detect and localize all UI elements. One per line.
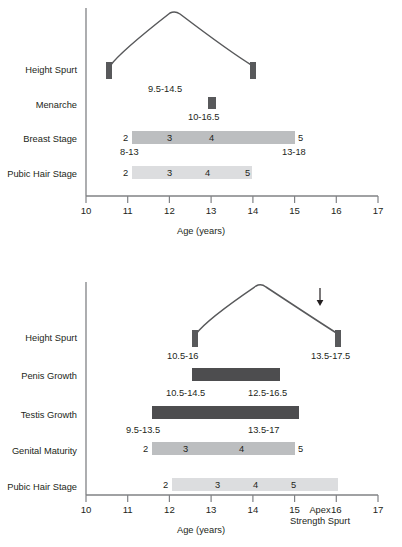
apex-strength-spurt-arrow — [317, 288, 324, 306]
height-spurt-curve — [196, 285, 338, 334]
row-label-genital-maturity: Genital Maturity — [12, 447, 77, 456]
genital-maturity-num-3: 3 — [183, 445, 188, 454]
row-label-pubic-hair-stage: Pubic Hair Stage — [7, 483, 77, 492]
x-tick-label-13: 13 — [199, 505, 223, 515]
menarche-marker — [208, 97, 216, 109]
height-spurt-start-marker — [106, 62, 112, 79]
x-axis-ticks — [86, 196, 378, 203]
pubic-hair-stage-num-4: 4 — [253, 481, 258, 490]
breast-stage-range-right: 13-18 — [282, 148, 306, 157]
x-tick-label-14: 14 — [241, 206, 265, 216]
x-tick-label-13: 13 — [199, 206, 223, 216]
menarche-range-label: 10-16.5 — [188, 113, 220, 122]
breast-stage-num-3: 3 — [167, 134, 172, 143]
penis-growth-range-left: 10.5-14.5 — [166, 389, 205, 398]
genital-maturity-bar — [152, 442, 295, 455]
x-axis-ticks — [86, 495, 378, 502]
pubic-hair-stage-num-5: 5 — [245, 169, 250, 178]
x-tick-label-12: 12 — [157, 505, 181, 515]
x-tick-label-15: 15 — [283, 505, 307, 515]
x-axis-title: Age (years) — [0, 525, 402, 535]
height-spurt-range-right: 13.5-17.5 — [311, 352, 350, 361]
height-spurt-start-marker — [192, 330, 198, 347]
x-tick-label-16: 16 — [324, 505, 348, 515]
x-tick-label-16: 16 — [324, 206, 348, 216]
genital-maturity-num-5: 5 — [298, 445, 303, 454]
height-spurt-range-label: 9.5-14.5 — [148, 85, 182, 94]
genital-maturity-num-2: 2 — [143, 445, 148, 454]
testis-growth-range-right: 13.5-17 — [248, 426, 280, 435]
x-tick-label-17: 17 — [366, 206, 390, 216]
x-tick-label-17: 17 — [366, 505, 390, 515]
row-label-height-spurt: Height Spurt — [25, 334, 77, 343]
male-pubertal-timeline-chart: Apex Strength Spurt Height Spurt Penis G… — [0, 250, 402, 547]
female-pubertal-timeline-chart: Height Spurt Menarche Breast Stage Pubic… — [0, 0, 402, 250]
height-spurt-curve — [110, 12, 253, 66]
male-chart-vector — [0, 250, 402, 547]
penis-growth-bar — [192, 368, 280, 381]
pubic-hair-stage-num-5: 5 — [291, 481, 296, 490]
testis-growth-range-left: 9.5-13.5 — [126, 426, 160, 435]
pubic-hair-stage-num-4: 4 — [205, 169, 210, 178]
breast-stage-num-4: 4 — [209, 134, 214, 143]
pubic-hair-stage-num-2: 2 — [123, 169, 128, 178]
genital-maturity-num-4: 4 — [239, 445, 244, 454]
x-tick-label-10: 10 — [74, 206, 98, 216]
pubic-hair-stage-num-3: 3 — [167, 169, 172, 178]
row-label-height-spurt: Height Spurt — [25, 66, 77, 75]
height-spurt-range-left: 10.5-16 — [167, 352, 199, 361]
pubic-hair-stage-bar — [132, 166, 252, 179]
x-tick-label-12: 12 — [157, 206, 181, 216]
male-plot-area: Apex Strength Spurt Height Spurt Penis G… — [0, 250, 402, 547]
x-tick-label-11: 11 — [116, 505, 140, 515]
x-tick-label-11: 11 — [116, 206, 140, 216]
row-label-testis-growth: Testis Growth — [21, 411, 77, 420]
row-label-breast-stage: Breast Stage — [23, 135, 77, 144]
x-tick-label-15: 15 — [283, 206, 307, 216]
row-label-menarche: Menarche — [36, 101, 77, 110]
breast-stage-num-2: 2 — [123, 134, 128, 143]
pubic-hair-stage-num-2: 2 — [163, 481, 168, 490]
height-spurt-end-marker — [335, 330, 341, 347]
row-label-penis-growth: Penis Growth — [21, 372, 77, 381]
breast-stage-range-left: 8-13 — [120, 148, 139, 157]
height-spurt-end-marker — [250, 62, 256, 79]
testis-growth-bar — [152, 406, 299, 419]
x-axis-title: Age (years) — [0, 226, 402, 236]
x-tick-label-14: 14 — [241, 505, 265, 515]
row-label-pubic-hair-stage: Pubic Hair Stage — [7, 170, 77, 179]
breast-stage-num-5: 5 — [298, 134, 303, 143]
x-tick-label-10: 10 — [74, 505, 98, 515]
female-plot-area: Height Spurt Menarche Breast Stage Pubic… — [0, 0, 402, 250]
penis-growth-range-right: 12.5-16.5 — [248, 389, 287, 398]
pubic-hair-stage-num-3: 3 — [215, 481, 220, 490]
